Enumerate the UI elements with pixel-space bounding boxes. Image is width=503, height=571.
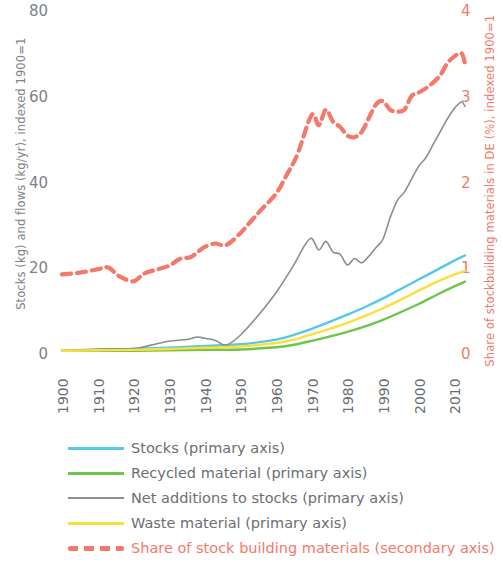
legend-item-label: Share of stock building materials (secon… bbox=[131, 541, 495, 556]
legend-item-label: Recycled material (primary axis) bbox=[131, 466, 367, 481]
y-axis-left-tick-label: 60 bbox=[14, 90, 48, 105]
legend-color-swatch bbox=[68, 518, 124, 530]
y-axis-left-tick-label: 80 bbox=[14, 4, 48, 19]
legend-item[interactable]: Waste material (primary axis) bbox=[68, 511, 498, 536]
x-axis-tick-label: 1900 bbox=[56, 378, 70, 414]
legend-item-label: Waste material (primary axis) bbox=[131, 516, 347, 531]
legend-item[interactable]: Share of stock building materials (secon… bbox=[68, 536, 498, 561]
x-axis-tick-label: 1980 bbox=[341, 378, 355, 414]
x-axis-tick-label: 1910 bbox=[92, 378, 106, 414]
legend-item-label: Net additions to stocks (primary axis) bbox=[131, 491, 404, 506]
x-axis-tick-label: 1920 bbox=[127, 378, 141, 414]
y-axis-left-ticks: 020406080 bbox=[14, 0, 48, 360]
legend-color-swatch bbox=[68, 443, 124, 455]
x-axis-tick-label: 2010 bbox=[448, 378, 462, 414]
y-axis-left-tick-label: 20 bbox=[14, 261, 48, 276]
legend-color-swatch bbox=[68, 543, 124, 555]
x-axis-tick-label: 1970 bbox=[306, 378, 320, 414]
y-axis-left-tick-label: 40 bbox=[14, 176, 48, 191]
legend-item[interactable]: Net additions to stocks (primary axis) bbox=[68, 486, 498, 511]
x-axis-tick-label: 1990 bbox=[377, 378, 391, 414]
series-line bbox=[62, 53, 465, 281]
plot-area bbox=[62, 12, 465, 355]
x-axis-ticks: 1900191019201930194019501960197019801990… bbox=[0, 358, 503, 422]
x-axis-tick-label: 1940 bbox=[199, 378, 213, 414]
series-line bbox=[62, 102, 465, 351]
chart-legend: Stocks (primary axis)Recycled material (… bbox=[68, 436, 498, 561]
x-axis-tick-label: 1930 bbox=[163, 378, 177, 414]
chart-figure: Stocks (kg) and flows (kg/yr), indexed 1… bbox=[0, 0, 503, 571]
y-axis-right-title: Share of stockbuilding materials in DE (… bbox=[485, 11, 497, 371]
x-axis-tick-label: 1960 bbox=[270, 378, 284, 414]
legend-item-label: Stocks (primary axis) bbox=[131, 441, 285, 456]
legend-item[interactable]: Recycled material (primary axis) bbox=[68, 461, 498, 486]
legend-color-swatch bbox=[68, 493, 124, 505]
x-axis-tick-label: 1950 bbox=[234, 378, 248, 414]
series-line bbox=[62, 256, 465, 351]
plot-canvas bbox=[62, 12, 465, 355]
legend-color-swatch bbox=[68, 468, 124, 480]
legend-item[interactable]: Stocks (primary axis) bbox=[68, 436, 498, 461]
x-axis-tick-label: 2000 bbox=[413, 378, 427, 414]
